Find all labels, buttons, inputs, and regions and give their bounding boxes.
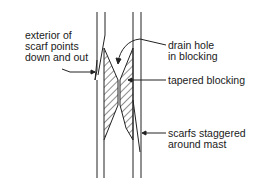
leader-drain: [118, 39, 166, 62]
right-tapered-blocking: [120, 48, 133, 140]
label-line: tapered blocking: [168, 75, 245, 86]
label-line: down and out: [25, 52, 88, 63]
mast-section-diagram: [0, 0, 265, 185]
label-line: around mast: [168, 139, 246, 150]
leader-exterior: [62, 69, 95, 72]
left-tapered-blocking: [104, 48, 118, 140]
label-line: in blocking: [168, 51, 218, 62]
label-blocking: tapered blocking: [168, 75, 245, 86]
label-staggered: scarfs staggered around mast: [168, 128, 246, 150]
label-exterior: exterior of scarf points down and out: [25, 30, 88, 63]
label-drain: drain hole in blocking: [168, 40, 218, 62]
